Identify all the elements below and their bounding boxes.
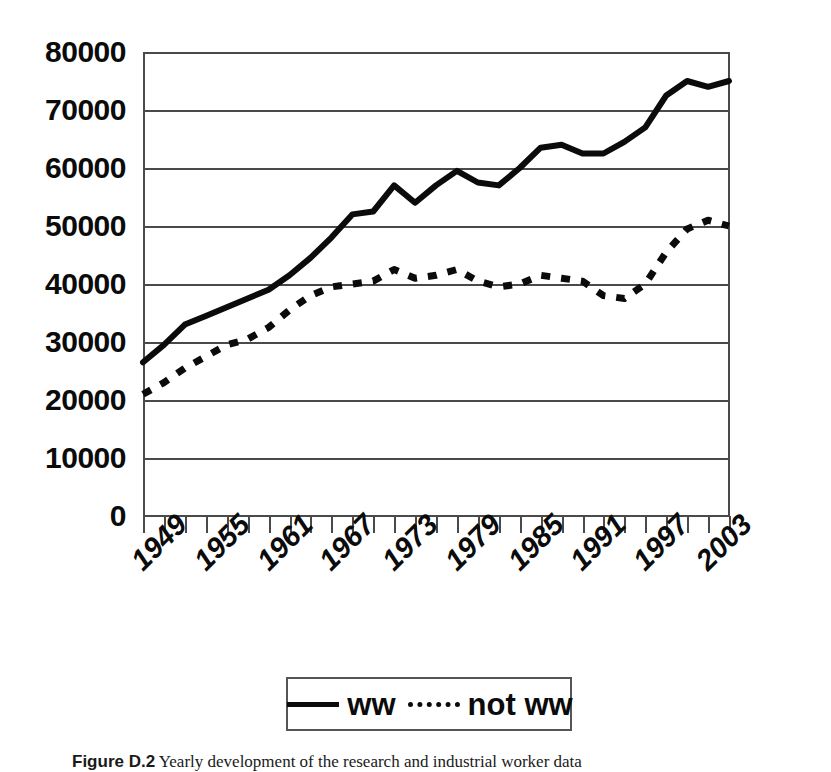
legend-label-not-ww: not ww <box>468 689 573 720</box>
figure-caption: Figure D.2 Yearly development of the res… <box>72 752 772 772</box>
legend-solid-line-icon <box>285 697 341 711</box>
legend-entry-not-ww: not ww <box>406 689 573 720</box>
x-axis-label-1949: 1949 <box>126 509 192 575</box>
chart-legend: ww not ww <box>286 677 572 731</box>
legend-label-ww: ww <box>347 689 395 720</box>
x-axis-label-1979: 1979 <box>440 509 506 575</box>
x-axis-label-1961: 1961 <box>252 509 318 575</box>
x-axis-label-1991: 1991 <box>565 509 631 575</box>
figure-caption-label: Figure D.2 <box>72 752 155 771</box>
x-axis-label-1967: 1967 <box>314 509 380 575</box>
x-axis-label-2003: 2003 <box>691 509 757 575</box>
legend-entry-ww: ww <box>285 689 395 720</box>
figure-caption-text: Yearly development of the research and i… <box>155 752 582 771</box>
x-axis-label-1955: 1955 <box>189 509 255 575</box>
x-axis-label-1997: 1997 <box>628 509 694 575</box>
legend-dashed-line-icon <box>406 697 462 711</box>
x-axis-label-1985: 1985 <box>503 509 569 575</box>
x-axis-label-1973: 1973 <box>377 509 443 575</box>
